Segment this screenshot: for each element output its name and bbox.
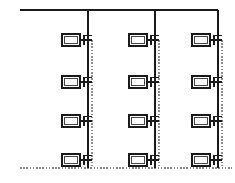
device-c2-r3-inner	[132, 118, 145, 125]
device-c1-r3-inner	[65, 118, 78, 125]
schematic-diagram-canvas: Riser Schematic	[0, 0, 235, 183]
device-c2-r4-inner	[132, 157, 145, 164]
schematic-svg	[0, 0, 235, 183]
device-c1-r2-inner	[65, 79, 78, 86]
device-c3-r2-inner	[195, 79, 208, 86]
device-c3-r3-inner	[195, 118, 208, 125]
device-c2-r1-inner	[132, 37, 145, 44]
device-c3-r4-inner	[195, 157, 208, 164]
device-c3-r1-inner	[195, 37, 208, 44]
device-c1-r4-inner	[65, 157, 78, 164]
device-c2-r2-inner	[132, 79, 145, 86]
devices-group	[62, 34, 222, 166]
device-c1-r1-inner	[65, 37, 78, 44]
